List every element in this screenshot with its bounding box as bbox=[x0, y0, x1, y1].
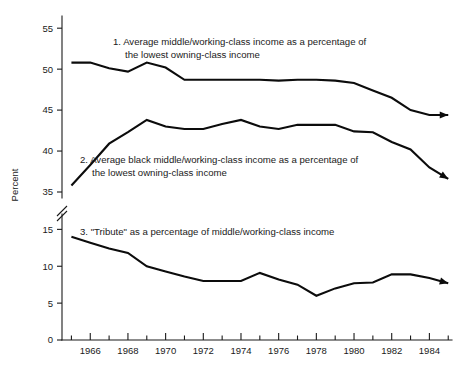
x-tick-label: 1978 bbox=[306, 345, 327, 356]
x-tick-label: 1974 bbox=[230, 345, 251, 356]
y-axis-title: Percent bbox=[9, 168, 20, 201]
series-3-line bbox=[71, 237, 448, 296]
y-tick-label: 5 bbox=[48, 298, 53, 309]
y-tick-label: 45 bbox=[42, 104, 53, 115]
series-1 bbox=[71, 63, 448, 119]
y-tick-label: 40 bbox=[42, 145, 53, 156]
y-tick-label: 15 bbox=[42, 224, 53, 235]
annotation-2-line-1: 2. Average black middle/working-class in… bbox=[80, 154, 359, 165]
x-tick-label: 1982 bbox=[381, 345, 402, 356]
annotation-3-line-1: 3. "Tribute" as a percentage of middle/w… bbox=[80, 226, 334, 237]
series-3 bbox=[71, 237, 448, 296]
chart-container: Percent 3540455055 051015 19661968197019… bbox=[0, 0, 459, 378]
annotation-1: 1. Average middle/working-class income a… bbox=[113, 36, 366, 60]
y-ticks-lower: 051015 bbox=[42, 224, 62, 346]
y-ticks-upper: 3540455055 bbox=[42, 23, 62, 198]
y-tick-label: 10 bbox=[42, 261, 53, 272]
y-tick-label: 50 bbox=[42, 64, 53, 75]
annotation-1-line-2: the lowest owning-class income bbox=[125, 49, 260, 60]
annotation-1-line-1: 1. Average middle/working-class income a… bbox=[113, 36, 366, 47]
series-1-line bbox=[71, 63, 448, 115]
x-tick-label: 1980 bbox=[343, 345, 364, 356]
x-tick-label: 1972 bbox=[193, 345, 214, 356]
y-tick-label: 55 bbox=[42, 23, 53, 34]
x-tick-label: 1984 bbox=[419, 345, 440, 356]
y-tick-label: 35 bbox=[42, 186, 53, 197]
series-1-arrow-head bbox=[440, 111, 449, 118]
x-ticks: 1966196819701972197419761978198019821984 bbox=[71, 333, 448, 356]
annotation-2-line-2: the lowest owning-class income bbox=[92, 167, 227, 178]
annotation-2: 2. Average black middle/working-class in… bbox=[80, 154, 359, 178]
annotation-3: 3. "Tribute" as a percentage of middle/w… bbox=[80, 226, 334, 237]
x-tick-label: 1966 bbox=[80, 345, 101, 356]
x-tick-label: 1968 bbox=[117, 345, 138, 356]
line-chart-svg: Percent 3540455055 051015 19661968197019… bbox=[0, 0, 459, 378]
series-layer bbox=[71, 63, 448, 296]
x-tick-label: 1970 bbox=[155, 345, 176, 356]
y-tick-label: 0 bbox=[48, 334, 53, 345]
x-tick-label: 1976 bbox=[268, 345, 289, 356]
